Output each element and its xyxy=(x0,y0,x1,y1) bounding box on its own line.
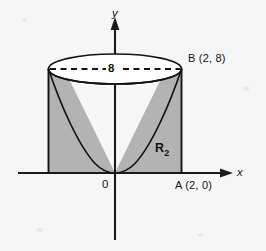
figure-container: y x 8 B (2, 8) A (2, 0) 0 R2 xyxy=(0,0,266,251)
region-label-main: R xyxy=(155,141,164,155)
solid-of-revolution-diagram xyxy=(0,0,266,251)
x-axis-arrowhead xyxy=(220,169,233,178)
x-axis-label: x xyxy=(237,167,243,179)
point-label-a: A (2, 0) xyxy=(175,180,212,191)
region-label-r2: R2 xyxy=(155,142,169,158)
point-label-b: B (2, 8) xyxy=(188,53,226,64)
region-label-subscript: 2 xyxy=(164,148,169,158)
y-axis-label: y xyxy=(112,8,118,20)
origin-label: 0 xyxy=(102,179,109,191)
y-tick-label-8: 8 xyxy=(106,63,117,75)
